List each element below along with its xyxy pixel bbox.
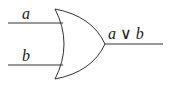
output-label: a ∨ b	[108, 25, 144, 42]
input-a-label: a	[22, 5, 30, 22]
input-b-label: b	[22, 47, 30, 64]
or-gate-body	[55, 9, 105, 79]
or-gate-diagram: a b a ∨ b	[0, 0, 169, 103]
